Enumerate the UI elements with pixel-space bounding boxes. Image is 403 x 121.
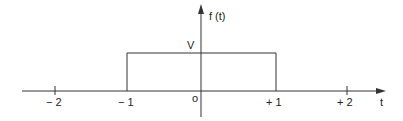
y-axis-label: f (t) bbox=[209, 11, 226, 22]
x-axis-label: t bbox=[380, 97, 383, 108]
tick-label-minus-2: − 2 bbox=[46, 97, 62, 108]
tick-label-plus-2: + 2 bbox=[337, 97, 353, 108]
x-axis-arrow-icon bbox=[376, 88, 386, 94]
y-axis-arrow-icon bbox=[198, 4, 204, 14]
origin-label: o bbox=[192, 93, 198, 104]
tick-label-minus-1: − 1 bbox=[118, 97, 134, 108]
tick-label-plus-1: + 1 bbox=[266, 97, 282, 108]
amplitude-label: V bbox=[187, 40, 194, 51]
